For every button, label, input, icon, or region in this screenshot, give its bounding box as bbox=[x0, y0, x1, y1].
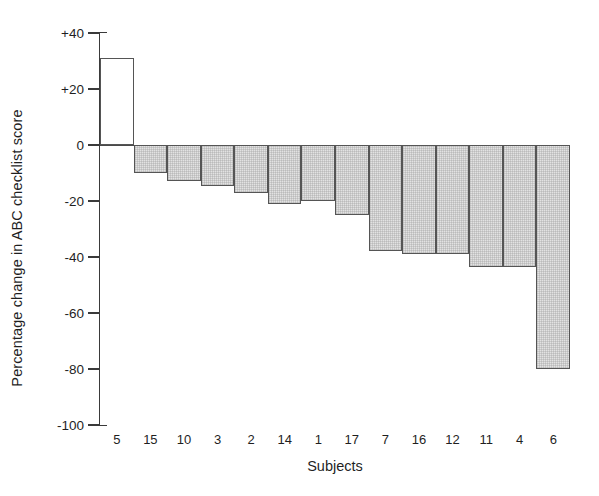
y-axis-tick-label: -20 bbox=[12, 194, 86, 209]
bar-subject-7 bbox=[369, 145, 403, 251]
bar-subject-3 bbox=[201, 145, 235, 186]
y-axis-tick-label: -80 bbox=[12, 362, 86, 377]
bar-subject-11 bbox=[469, 145, 503, 267]
y-axis-tick bbox=[88, 88, 99, 89]
bar-subject-1 bbox=[301, 145, 335, 201]
x-axis-tick-label: 10 bbox=[167, 432, 201, 452]
bar-subject-15 bbox=[134, 145, 168, 173]
y-axis-tick-label: -60 bbox=[12, 306, 86, 321]
y-axis-tick bbox=[88, 32, 99, 33]
x-axis-tick-label: 14 bbox=[268, 432, 302, 452]
y-axis-tick-label: -100 bbox=[12, 418, 86, 433]
bar-subject-17 bbox=[335, 145, 369, 215]
y-axis-tick bbox=[88, 368, 99, 369]
x-axis-tick-label: 17 bbox=[335, 432, 369, 452]
x-axis-tick-label: 3 bbox=[201, 432, 235, 452]
bar-subject-14 bbox=[268, 145, 302, 204]
x-axis-title: Subjects bbox=[100, 458, 570, 474]
bar-subject-10 bbox=[167, 145, 201, 181]
plot-area bbox=[100, 33, 570, 425]
x-axis-tick-label: 5 bbox=[100, 432, 134, 452]
y-axis-tick-labels: +40+200-20-40-60-80-100 bbox=[8, 0, 86, 496]
bar-subject-2 bbox=[234, 145, 268, 193]
y-axis-tick-label: +20 bbox=[12, 82, 86, 97]
x-axis-tick-labels: 515103214117716121146 bbox=[100, 432, 570, 452]
x-axis-tick-label: 15 bbox=[134, 432, 168, 452]
x-axis-tick-label: 4 bbox=[503, 432, 537, 452]
bar-subject-5 bbox=[100, 58, 134, 145]
x-axis-tick-label: 11 bbox=[469, 432, 503, 452]
y-axis-tick bbox=[88, 424, 99, 425]
bar-subject-6 bbox=[536, 145, 570, 369]
x-axis-tick-label: 1 bbox=[301, 432, 335, 452]
x-axis-tick-label: 16 bbox=[402, 432, 436, 452]
bar-subject-12 bbox=[436, 145, 470, 254]
bar-subject-16 bbox=[402, 145, 436, 254]
y-axis-tick-label: -40 bbox=[12, 250, 86, 265]
y-axis-tick bbox=[88, 256, 99, 257]
x-axis-tick-label: 2 bbox=[234, 432, 268, 452]
y-axis-tick bbox=[88, 312, 99, 313]
y-axis-tick-label: +40 bbox=[12, 26, 86, 41]
x-axis-tick-label: 7 bbox=[369, 432, 403, 452]
y-axis-tick bbox=[88, 144, 99, 145]
y-axis-tick-label: 0 bbox=[12, 138, 86, 153]
x-axis-tick-label: 12 bbox=[436, 432, 470, 452]
x-axis-tick-label: 6 bbox=[537, 432, 571, 452]
bar-chart-figure: Percentage change in ABC checklist score… bbox=[0, 0, 599, 496]
bar-subject-4 bbox=[503, 145, 537, 267]
y-axis-tick bbox=[88, 200, 99, 201]
